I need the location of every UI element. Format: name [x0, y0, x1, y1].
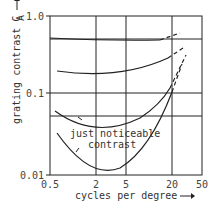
y-axis-label-subscript: A	[15, 15, 26, 21]
xtick-label: 5	[123, 179, 129, 190]
y-axis-label: grating contrast C	[11, 16, 22, 124]
x-axis-label: cycles per degree	[75, 190, 177, 201]
y-axis-arrowhead	[14, 0, 20, 1]
xtick-label: 50	[196, 179, 208, 190]
annotation-arrow-1	[78, 117, 82, 120]
ytick-label: 0.1	[26, 88, 44, 99]
annotation-line-2: contrast	[88, 139, 136, 150]
curve-2	[57, 58, 168, 74]
annotation-arrow-2	[76, 148, 79, 152]
curve-3	[55, 88, 170, 127]
xtick-label: 0.5	[41, 179, 59, 190]
ytick-label: 1.0	[26, 11, 44, 22]
contrast-sensitivity-chart: just noticeable contrast 1.0 0.1 0.01 0.…	[0, 0, 216, 202]
y-axis-label-group: grating contrast C A	[11, 0, 26, 124]
curve-4-dashed	[172, 64, 182, 92]
xtick-label: 20	[166, 179, 178, 190]
annotation-line-1: just noticeable	[70, 128, 160, 139]
x-axis-arrowhead	[191, 193, 195, 199]
xtick-label: 2	[93, 179, 99, 190]
curve-2-dashed	[168, 48, 183, 58]
